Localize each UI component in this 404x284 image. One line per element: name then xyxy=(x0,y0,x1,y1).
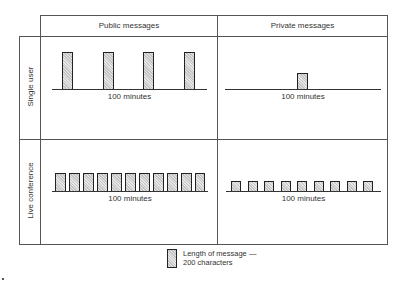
message-bar xyxy=(143,52,154,89)
header-bottom-border xyxy=(19,36,388,37)
message-bar xyxy=(248,181,258,191)
message-bar xyxy=(184,52,195,89)
timeline-axis xyxy=(52,89,207,90)
message-bar xyxy=(55,173,66,191)
message-bar xyxy=(62,52,73,89)
row-label-single-user: Single user xyxy=(26,47,35,127)
message-bar xyxy=(363,181,373,191)
message-bar xyxy=(231,181,241,191)
row-label-live-conference: Live conference xyxy=(26,151,35,231)
timeline-axis xyxy=(52,191,208,192)
message-bar xyxy=(314,181,324,191)
legend-line-2: 200 characters xyxy=(183,258,233,267)
message-bar xyxy=(297,73,308,89)
legend-line-1: Length of message — xyxy=(183,249,256,258)
column-divider xyxy=(217,15,218,245)
timeline-label: 100 minutes xyxy=(52,194,208,203)
grid-left-border xyxy=(19,36,20,245)
message-bar xyxy=(181,173,192,191)
message-bar xyxy=(330,181,340,191)
message-bar xyxy=(297,181,307,191)
message-bar xyxy=(69,173,80,191)
message-bar xyxy=(111,173,122,191)
column-header-private: Private messages xyxy=(218,21,387,30)
timeline-axis xyxy=(225,89,381,90)
message-bar xyxy=(281,181,291,191)
message-bar xyxy=(195,173,205,191)
timeline-label: 100 minutes xyxy=(226,194,381,203)
column-header-public: Public messages xyxy=(41,21,217,30)
message-bar xyxy=(97,173,108,191)
message-bar xyxy=(83,173,94,191)
message-bar xyxy=(347,181,357,191)
grid-top-border xyxy=(40,15,388,16)
message-bar xyxy=(103,52,114,89)
timeline-label: 100 minutes xyxy=(52,92,207,101)
message-bar xyxy=(167,173,178,191)
message-bar xyxy=(153,173,164,191)
message-bar xyxy=(264,181,274,191)
message-bar xyxy=(125,173,136,191)
timeline-axis xyxy=(226,191,381,192)
grid-right-border xyxy=(387,15,388,245)
label-column-divider xyxy=(40,15,41,245)
message-bar xyxy=(139,173,150,191)
stray-mark xyxy=(2,278,4,280)
legend-swatch xyxy=(167,249,177,268)
timeline-label: 100 minutes xyxy=(225,92,381,101)
row-divider xyxy=(19,139,388,140)
grid-bottom-border xyxy=(19,244,388,245)
